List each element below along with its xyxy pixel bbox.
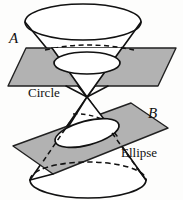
circle-section-label: Circle — [28, 86, 60, 99]
ellipse-section-label: Ellipse — [121, 146, 157, 159]
circle-cross-section — [54, 52, 120, 74]
plane-a-label: A — [9, 31, 18, 46]
conic-diagram-canvas — [0, 0, 183, 200]
plane-b-label: B — [148, 106, 157, 121]
top-cone-rim-ellipse — [25, 4, 141, 40]
conic-sections-figure: A B Circle Ellipse — [0, 0, 183, 200]
